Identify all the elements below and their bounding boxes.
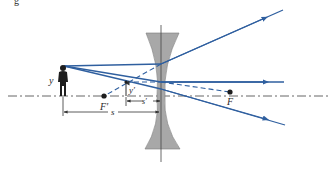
ray-arrow-1 [161,18,265,64]
caption-fragment: g [14,0,19,6]
back-focal-point [227,89,232,94]
front-focal-point [101,93,106,98]
image-distance-label: s′ [142,97,147,106]
image-height-label: y′ [128,85,136,95]
lens-ray-diagram: g y F′ y′ F s′ s [0,0,335,173]
object-height-label: y [48,75,54,86]
person-silhouette-icon [58,65,68,96]
image-tip-point [124,80,127,83]
focal-ray [64,66,161,82]
back-focal-label: F [226,96,234,107]
concave-lens [145,33,180,149]
ray-2-toward-F [161,82,230,92]
central-ray [64,66,161,89]
object-distance-label: s [111,107,115,117]
parallel-ray [64,64,161,66]
ray-arrow-3 [161,89,266,119]
front-focal-label: F′ [99,101,109,112]
